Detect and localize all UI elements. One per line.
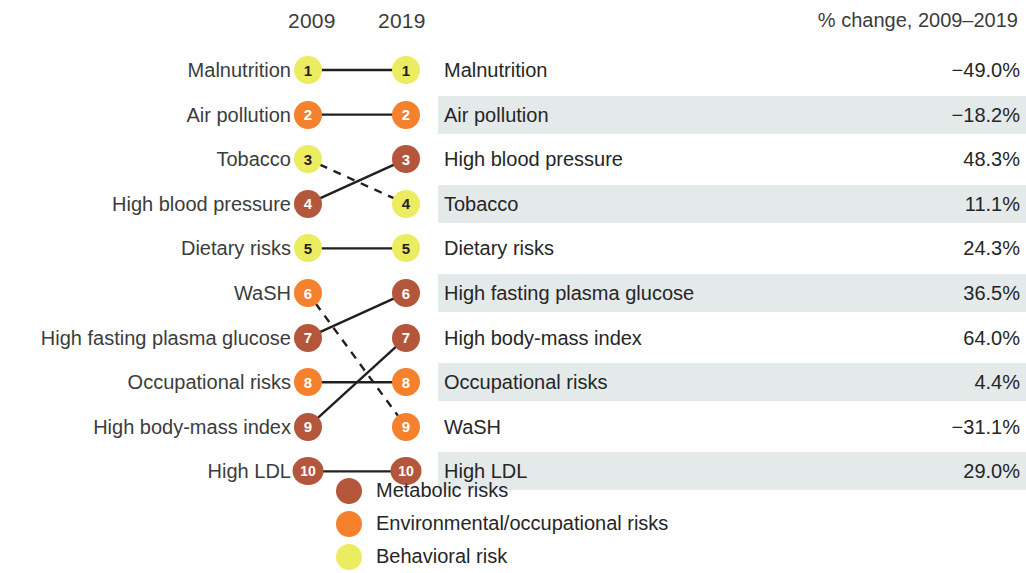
legend-item[interactable]: Environmental/occupational risks [336,507,668,540]
left-risk-label: High body-mass index [93,415,291,438]
slope-link [316,303,399,416]
rank-number: 3 [402,152,410,167]
legend-item[interactable]: Behavioral risk [336,540,668,573]
left-risk-label: High LDL [208,460,291,483]
rank-number: 10 [300,464,316,478]
left-risk-label: High blood pressure [112,192,291,215]
rank-number: 8 [304,375,312,390]
left-risk-label: Malnutrition [188,59,291,82]
rank-number: 2 [304,107,312,122]
rank-node-left-2[interactable]: 2 [294,101,322,129]
slope-chart-figure: 2009 2019 % change, 2009–2019 Malnutriti… [0,0,1026,573]
left-risk-label: High fasting plasma glucose [41,326,291,349]
rank-number: 6 [304,286,312,301]
rank-node-right-4[interactable]: 4 [392,190,420,218]
rank-number: 2 [402,107,410,122]
rank-number: 7 [304,330,312,345]
rank-number: 9 [304,419,312,434]
legend-item[interactable]: Metabolic risks [336,474,668,507]
rank-node-left-4[interactable]: 4 [294,190,322,218]
rank-number: 1 [402,63,410,78]
rank-number: 8 [402,375,410,390]
rank-number: 9 [402,419,410,434]
rank-number: 4 [304,196,312,211]
rank-node-right-2[interactable]: 2 [392,101,420,129]
rank-number: 5 [304,241,312,256]
rank-number: 3 [304,152,312,167]
slope-link [320,298,394,332]
rank-number: 4 [402,196,410,211]
rank-node-right-6[interactable]: 6 [392,279,420,307]
slope-link [320,165,394,199]
legend-label: Metabolic risks [376,479,508,502]
legend-label: Environmental/occupational risks [376,512,668,535]
left-risk-label: Air pollution [186,103,291,126]
rank-node-right-3[interactable]: 3 [392,145,420,173]
legend-swatch-environmental-icon [336,511,362,537]
rank-node-right-8[interactable]: 8 [392,368,420,396]
legend-swatch-metabolic-icon [336,478,362,504]
legend-label: Behavioral risk [376,545,507,568]
rank-node-left-9[interactable]: 9 [294,413,322,441]
rank-node-left-8[interactable]: 8 [294,368,322,396]
rank-node-left-1[interactable]: 1 [294,56,322,84]
left-risk-label: Occupational risks [128,371,291,394]
legend-swatch-behavioral-icon [336,544,362,570]
rank-node-left-7[interactable]: 7 [294,324,322,352]
left-risk-label: Dietary risks [181,237,291,260]
rank-node-right-5[interactable]: 5 [392,234,420,262]
rank-number: 5 [402,241,410,256]
rank-node-left-10[interactable]: 10 [293,457,324,485]
rank-number: 1 [304,63,312,78]
left-risk-label: Tobacco [217,148,292,171]
rank-node-right-9[interactable]: 9 [392,413,420,441]
rank-node-left-6[interactable]: 6 [294,279,322,307]
rank-node-right-1[interactable]: 1 [392,56,420,84]
legend: Metabolic risksEnvironmental/occupationa… [336,474,668,573]
rank-node-left-3[interactable]: 3 [294,145,322,173]
rank-node-right-7[interactable]: 7 [392,324,420,352]
rank-number: 7 [402,330,410,345]
rank-node-left-5[interactable]: 5 [294,234,322,262]
rank-number: 6 [402,286,410,301]
left-risk-label: WaSH [234,282,291,305]
